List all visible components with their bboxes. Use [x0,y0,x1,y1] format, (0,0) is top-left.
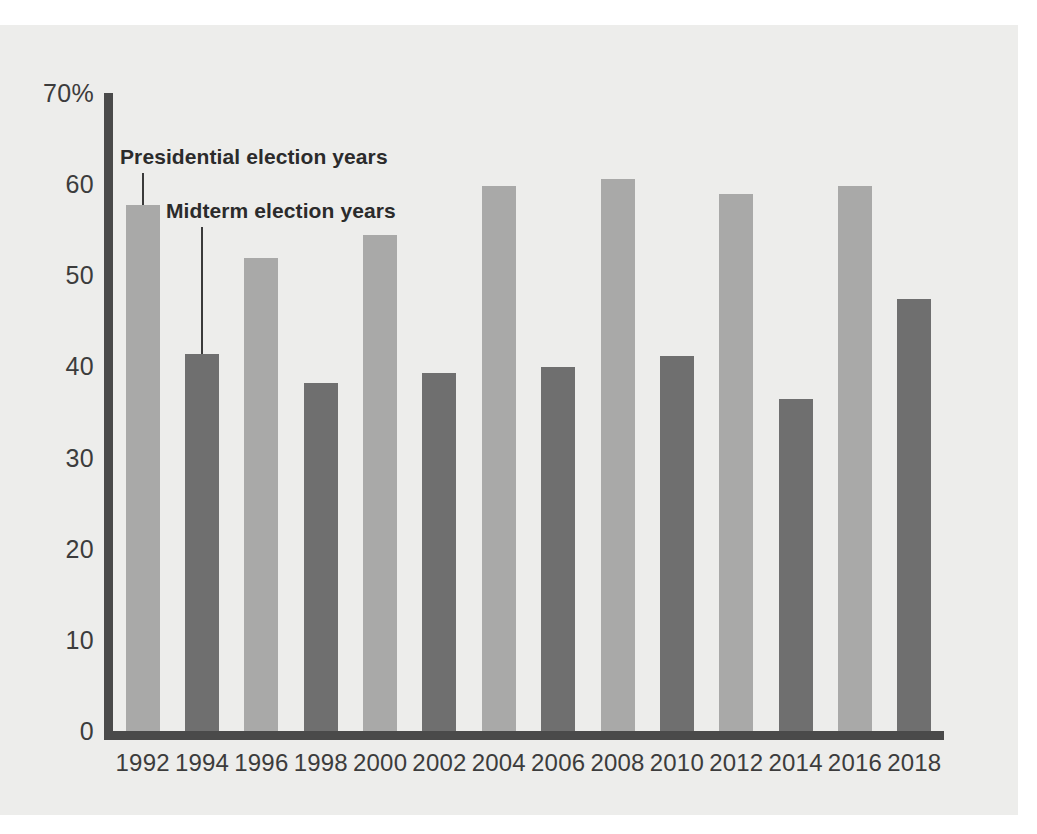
bars-container [113,93,944,731]
x-axis-tick-label: 2000 [350,749,409,777]
bar-2008 [588,93,647,731]
x-axis-tick-label: 1996 [232,749,291,777]
bar-2018 [885,93,944,731]
bar-rect-2004 [482,186,516,731]
bar-rect-2014 [779,399,813,731]
x-axis-tick-label: 2008 [588,749,647,777]
bar-rect-1998 [304,383,338,731]
bar-2012 [707,93,766,731]
bar-2014 [766,93,825,731]
presidential-annotation-leader-line [142,173,144,205]
bar-1994 [172,93,231,731]
y-axis-tick-label: 10 [0,625,94,654]
y-axis-tick-label: 20 [0,534,94,563]
x-axis-tick-label: 2004 [469,749,528,777]
y-axis-tick-label: 60 [0,170,94,199]
x-axis-tick-label: 2006 [529,749,588,777]
bar-rect-2016 [838,186,872,731]
bar-rect-2002 [422,373,456,731]
x-axis-tick-label: 2002 [410,749,469,777]
x-axis-tick-label: 2012 [707,749,766,777]
bar-rect-1992 [126,205,160,731]
bar-2000 [350,93,409,731]
x-axis-tick-label: 1992 [113,749,172,777]
bar-2002 [410,93,469,731]
bar-rect-2018 [897,299,931,731]
y-axis-tick-label: 40 [0,352,94,381]
x-axis-line [104,731,944,740]
y-axis-tick-label: 50 [0,261,94,290]
presidential-annotation-label: Presidential election years [120,145,388,169]
bar-1998 [291,93,350,731]
y-axis-tick-label: 0 [0,717,94,746]
midterm-annotation-label: Midterm election years [166,199,396,223]
bar-2006 [529,93,588,731]
x-axis-tick-label: 2018 [885,749,944,777]
x-axis-tick-label: 2010 [647,749,706,777]
bar-rect-2012 [719,194,753,731]
chart-figure: 70%6050403020100 19921994199619982000200… [0,25,1018,815]
bar-2016 [825,93,884,731]
x-axis-tick-label: 1998 [291,749,350,777]
bar-rect-2006 [541,367,575,731]
x-axis-tick-labels: 1992199419961998200020022004200620082010… [113,749,944,789]
plot-area: 70%6050403020100 19921994199619982000200… [0,25,1018,815]
bar-2004 [469,93,528,731]
bar-rect-2000 [363,235,397,731]
bar-rect-1996 [244,258,278,731]
x-axis-tick-label: 1994 [172,749,231,777]
bar-rect-2008 [601,179,635,731]
bar-rect-2010 [660,356,694,732]
y-axis-tick-label: 30 [0,443,94,472]
bar-rect-1994 [185,354,219,731]
y-axis-line [104,93,113,740]
midterm-annotation-leader-line [201,227,203,354]
y-axis-tick-label: 70% [0,79,94,108]
bar-1996 [232,93,291,731]
x-axis-tick-label: 2014 [766,749,825,777]
x-axis-tick-label: 2016 [825,749,884,777]
bar-2010 [647,93,706,731]
